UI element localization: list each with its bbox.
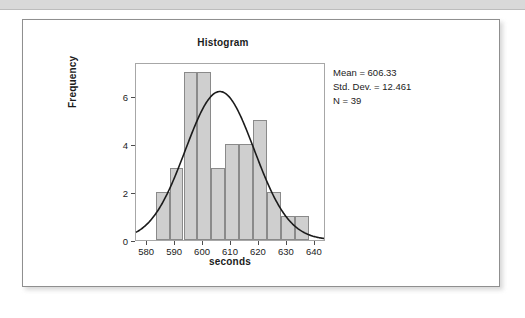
x-axis-tick-mark (286, 241, 287, 245)
stat-mean: Mean = 606.33 (333, 66, 411, 80)
statistics-annotation: Mean = 606.33 Std. Dev. = 12.461 N = 39 (333, 66, 411, 108)
y-axis-tick-label: 6 (108, 91, 128, 102)
x-axis-title: seconds (135, 256, 325, 267)
x-axis-tick-mark (202, 241, 203, 245)
histogram-chart: Histogram Frequency 0246 580590600610620… (23, 20, 501, 288)
histogram-bar (253, 120, 267, 240)
y-axis: 0246 (105, 63, 135, 241)
stat-std-dev: Std. Dev. = 12.461 (333, 80, 411, 94)
y-axis-tick-label: 0 (108, 236, 128, 247)
histogram-bar (295, 216, 309, 240)
page-top-band-edge (0, 9, 525, 10)
histogram-bar (156, 192, 170, 240)
plot-inner (136, 64, 324, 240)
figure-card: Histogram Frequency 0246 580590600610620… (22, 19, 500, 287)
x-axis-tick-mark (314, 241, 315, 245)
y-axis-title: Frequency (67, 56, 78, 108)
x-axis-tick-mark (146, 241, 147, 245)
x-axis-tick-mark (230, 241, 231, 245)
x-axis-tick-mark (258, 241, 259, 245)
histogram-bar (197, 72, 211, 240)
histogram-bar (225, 144, 239, 240)
y-axis-tick-label: 4 (108, 139, 128, 150)
histogram-bar (170, 168, 184, 240)
histogram-bar (184, 72, 198, 240)
histogram-bar (239, 144, 253, 240)
screenshot-root: Histogram Frequency 0246 580590600610620… (0, 0, 525, 318)
stat-n: N = 39 (333, 94, 411, 108)
histogram-bar (267, 192, 281, 240)
y-axis-tick-label: 2 (108, 187, 128, 198)
plot-area (135, 63, 325, 241)
histogram-bar (281, 216, 295, 240)
chart-title: Histogram (133, 37, 313, 48)
x-axis-tick-mark (174, 241, 175, 245)
histogram-bar (211, 168, 225, 240)
